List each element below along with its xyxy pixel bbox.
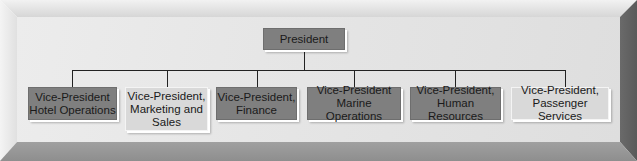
node-president: President (263, 28, 345, 50)
node-vp-finance: Vice-President, Finance (216, 87, 297, 120)
frame-bottom-bevel (0, 142, 637, 161)
frame-right-bevel (620, 0, 637, 161)
node-vp-marketing-sales: Vice-President, Marketing and Sales (125, 87, 208, 131)
connector-root-down (304, 50, 305, 70)
org-chart-frame: President Vice-President Hotel Operation… (0, 0, 637, 161)
node-vp-human-resources: Vice-President, Human Resources (410, 87, 501, 120)
node-label: Vice-President Hotel Operations (29, 91, 115, 117)
node-label: Vice-President, Passenger Services (512, 84, 608, 123)
connector-horizontal (72, 70, 566, 71)
node-vp-passenger-services: Vice-President, Passenger Services (511, 87, 609, 120)
node-label: Vice-President, Finance (218, 91, 296, 117)
frame-top-bevel (0, 0, 637, 17)
node-label: Vice-President Marine Operations (308, 84, 400, 123)
connector-vp-3 (257, 70, 258, 87)
frame-left-bevel (0, 0, 17, 161)
node-vp-marine-operations: Vice-President Marine Operations (307, 87, 401, 120)
node-label: Vice-President, Human Resources (411, 84, 500, 123)
node-vp-hotel-operations: Vice-President Hotel Operations (28, 87, 117, 120)
node-president-label: President (280, 33, 329, 46)
connector-vp-2 (167, 70, 168, 87)
connector-vp-1 (72, 70, 73, 87)
node-label: Vice-President, Marketing and Sales (128, 90, 206, 129)
